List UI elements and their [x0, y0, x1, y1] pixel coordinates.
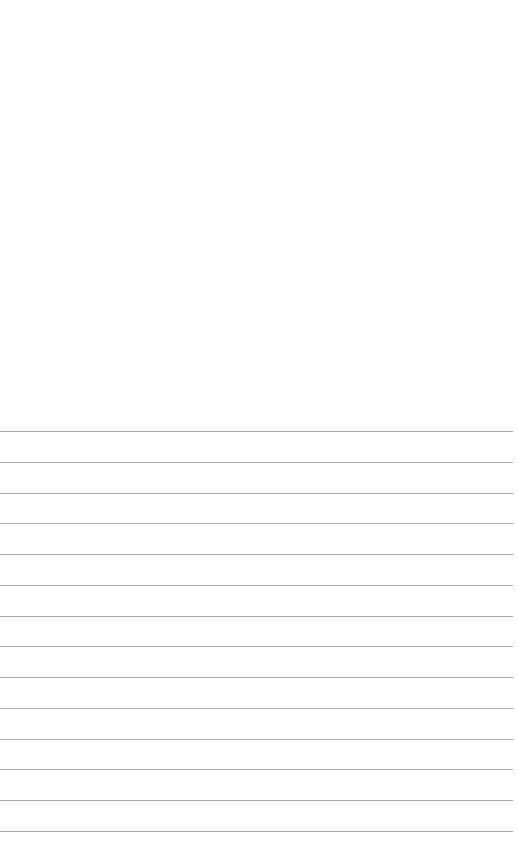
- rule-line: [0, 769, 513, 770]
- ruled-writing-area[interactable]: [0, 428, 517, 866]
- blank-header-region: [0, 0, 517, 428]
- rule-line: [0, 523, 513, 524]
- rule-line: [0, 493, 513, 494]
- rule-line: [0, 739, 513, 740]
- rule-line: [0, 677, 513, 678]
- ruled-paper-page: [0, 0, 517, 866]
- rule-line: [0, 554, 513, 555]
- rule-line: [0, 800, 513, 801]
- rule-line: [0, 646, 513, 647]
- rule-line: [0, 431, 513, 432]
- rule-line: [0, 708, 513, 709]
- blank-footer-margin: [0, 832, 517, 866]
- rule-line: [0, 616, 513, 617]
- rule-line: [0, 462, 513, 463]
- rule-line: [0, 585, 513, 586]
